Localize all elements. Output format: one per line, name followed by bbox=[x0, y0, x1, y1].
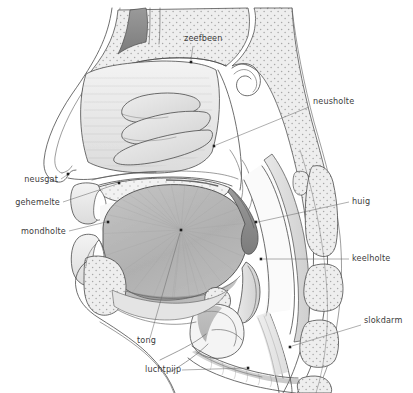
pointer-dot-mondholte bbox=[107, 221, 110, 224]
label-text-neusholte: neusholte bbox=[313, 96, 354, 106]
pointer-dot-neusholte bbox=[213, 145, 216, 148]
anatomy-svg: zeefbeenneusholtehuigkeelholteslokdarmne… bbox=[0, 0, 413, 393]
label-text-zeefbeen: zeefbeen bbox=[184, 33, 222, 43]
label-text-luchtpijp: luchtpijp bbox=[145, 364, 181, 374]
label-text-huig: huig bbox=[352, 196, 370, 206]
pointer-dot-tong bbox=[180, 229, 183, 232]
anatomy-figure: zeefbeenneusholtehuigkeelholteslokdarmne… bbox=[0, 0, 413, 393]
pointer-dot-luchtpijp bbox=[247, 367, 250, 370]
label-text-tong: tong bbox=[137, 335, 156, 345]
label-text-slokdarm: slokdarm bbox=[364, 315, 402, 325]
pointer-dot-gehemelte bbox=[118, 182, 121, 185]
pointer-dot-zeefbeen bbox=[190, 61, 193, 64]
label-text-neusgat: neusgat bbox=[24, 174, 58, 184]
label-text-mondholte: mondholte bbox=[21, 226, 66, 236]
label-text-gehemelte: gehemelte bbox=[15, 197, 60, 207]
label-text-keelholte: keelholte bbox=[352, 253, 390, 263]
pointer-dot-neusgat bbox=[67, 173, 70, 176]
pointer-dot-slokdarm bbox=[289, 346, 292, 349]
pointer-dot-keelholte bbox=[260, 258, 263, 261]
pointer-dot-huig bbox=[255, 221, 258, 224]
